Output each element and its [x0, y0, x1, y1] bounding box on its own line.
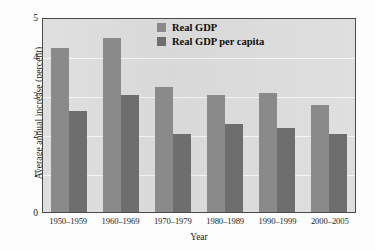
- bar-group: [259, 19, 295, 212]
- y-tick-label: 3: [20, 91, 38, 101]
- x-tick-label: 1950–1959: [49, 216, 87, 226]
- bar-group: [51, 19, 87, 212]
- bar: [121, 95, 139, 212]
- legend-item: Real GDP: [157, 22, 264, 33]
- bar: [103, 38, 121, 212]
- y-tick-label: 1: [20, 169, 38, 179]
- chart-figure: Average annual increase (percent) 012345…: [0, 0, 375, 250]
- bar-group: [103, 19, 139, 212]
- chart-legend: Real GDPReal GDP per capita: [157, 22, 264, 50]
- x-tick-label: 1980–1989: [206, 216, 244, 226]
- bar: [329, 134, 347, 212]
- legend-item: Real GDP per capita: [157, 36, 264, 47]
- x-tick-label: 1990–1999: [259, 216, 297, 226]
- x-axis-tick-labels: 1950–19591960–19691970–19791980–19891990…: [42, 216, 356, 226]
- bar: [173, 134, 191, 212]
- x-tick-label: 1970–1979: [154, 216, 192, 226]
- bar-group: [311, 19, 347, 212]
- y-tick-label: 2: [20, 130, 38, 140]
- y-tick-label: 5: [20, 13, 38, 23]
- bar: [207, 95, 225, 212]
- y-axis-tick-labels: 012345: [20, 18, 38, 213]
- legend-swatch: [157, 23, 166, 32]
- x-axis-title: Year: [42, 232, 356, 242]
- x-tick-label: 1960–1969: [102, 216, 140, 226]
- x-tick-label: 2000–2005: [311, 216, 349, 226]
- bar: [69, 111, 87, 212]
- bar: [277, 128, 295, 212]
- bar: [51, 48, 69, 212]
- y-tick-label: 0: [20, 208, 38, 218]
- legend-swatch: [157, 37, 166, 46]
- bar: [225, 124, 243, 212]
- bar: [311, 105, 329, 212]
- bar: [155, 87, 173, 212]
- y-tick-label: 4: [20, 52, 38, 62]
- legend-label: Real GDP: [172, 22, 217, 33]
- legend-label: Real GDP per capita: [172, 36, 264, 47]
- bar: [259, 93, 277, 212]
